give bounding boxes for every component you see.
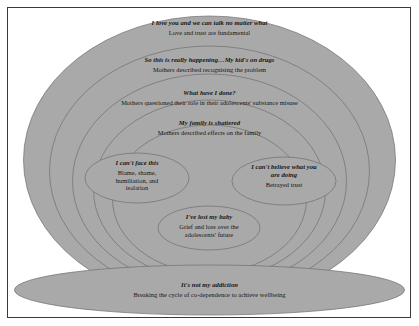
layer-2-theme: So this is really happening…My kid's on … <box>0 56 419 64</box>
inner-right-description: Betrayed trust <box>236 181 332 189</box>
inner-center-theme: I've lost my baby <box>159 213 259 221</box>
layer-4-text-block: My family is shattered Mothers described… <box>0 119 419 137</box>
base-theme: It's not my addiction <box>0 281 419 289</box>
inner-center-text-block: I've lost my baby Grief and loss over th… <box>159 213 259 238</box>
layer-2-text-block: So this is really happening…My kid's on … <box>0 56 419 74</box>
inner-right-text-block: I can't believe what you are doing Betra… <box>236 163 332 189</box>
inner-left-theme: I can't face this <box>87 159 187 167</box>
layer-1-description: Love and trust are fundamental <box>0 29 419 37</box>
onion-diagram-svg <box>0 0 419 326</box>
layer-3-text-block: What have I done? Mothers questioned the… <box>0 89 419 107</box>
base-ellipse-text-block: It's not my addiction Breaking the cycle… <box>0 281 419 299</box>
inner-left-text-block: I can't face this Blame, shame, humiliat… <box>87 159 187 192</box>
layer-2-description: Mothers described recognising the proble… <box>0 66 419 74</box>
figure-container: I love you and we can talk no matter wha… <box>0 0 419 326</box>
layer-3-theme: What have I done? <box>0 89 419 97</box>
layer-4-theme: My family is shattered <box>0 119 419 127</box>
layer-1-text-block: I love you and we can talk no matter wha… <box>0 19 419 37</box>
inner-left-description: Blame, shame, humiliation, and isolation <box>87 169 187 192</box>
layer-1-theme: I love you and we can talk no matter wha… <box>0 19 419 27</box>
layer-3-description: Mothers questioned their role in their a… <box>0 99 419 107</box>
inner-center-description: Grief and loss over the adolescents' fut… <box>159 223 259 238</box>
base-description: Breaking the cycle of co-dependence to a… <box>0 291 419 299</box>
layer-4-description: Mothers described effects on the family <box>0 129 419 137</box>
inner-right-theme: I can't believe what you are doing <box>236 163 332 179</box>
